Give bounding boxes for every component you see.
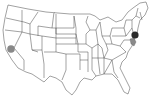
us-map bbox=[0, 0, 152, 103]
us-map-svg bbox=[0, 0, 152, 103]
marker-california[interactable] bbox=[7, 45, 15, 53]
state-outlines bbox=[3, 2, 148, 95]
marker-new-jersey[interactable] bbox=[131, 31, 138, 38]
